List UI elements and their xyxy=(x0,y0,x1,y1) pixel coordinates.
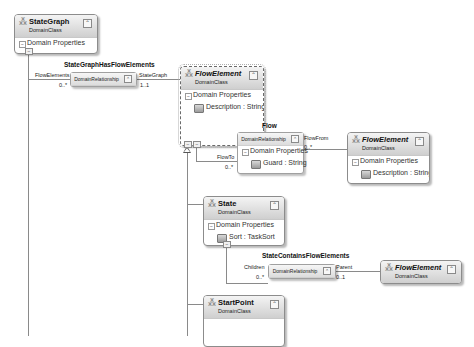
property-label: Guard : String xyxy=(263,159,307,166)
property-row[interactable]: Guard : String xyxy=(238,158,303,170)
property-icon xyxy=(361,170,371,179)
property-row[interactable]: Sort : TaskSort xyxy=(204,232,284,244)
section-label: Domain Properties xyxy=(250,147,308,154)
source-multiplicity: 0..* xyxy=(256,274,264,280)
class-kind: DomainClass xyxy=(362,145,395,151)
relationship-title: StateGraphHasFlowElements xyxy=(64,61,155,68)
has-flow-elements-line-right xyxy=(136,79,180,80)
class-icon: ⁂ xyxy=(19,18,27,26)
target-role-label: StateGraph xyxy=(139,72,167,78)
class-kind: DomainClass xyxy=(218,209,251,215)
collapse-icon[interactable]: ⌃ xyxy=(323,267,331,275)
property-label: Sort : TaskSort xyxy=(229,233,275,240)
section-toggle-icon[interactable]: − xyxy=(19,41,26,48)
section-label: Domain Properties xyxy=(216,221,274,228)
collapse-icon[interactable]: ⌃ xyxy=(291,135,299,143)
collapse-icon[interactable]: ⌃ xyxy=(249,71,258,80)
section-label: Domain Properties xyxy=(193,91,251,98)
source-role-label: Children xyxy=(244,264,264,270)
relationship-title: Flow xyxy=(262,122,277,129)
flow-element-expander-right[interactable]: − xyxy=(193,141,201,148)
class-name: StateGraph xyxy=(29,17,69,26)
domain-properties-section: − Domain Properties xyxy=(181,90,263,102)
class-icon: ⁂ xyxy=(208,299,216,307)
collapse-icon[interactable]: ⌃ xyxy=(83,19,92,28)
class-state[interactable]: ⁂ State DomainClass ⌃ − Domain Propertie… xyxy=(203,196,285,246)
state-graph-expander[interactable]: − xyxy=(25,48,33,55)
source-role-label: FlowTo xyxy=(217,154,234,160)
state-graph-vertical-connector xyxy=(28,52,29,336)
relationship-kind: DomainRelationship xyxy=(238,136,289,142)
class-flow-element-flow-target[interactable]: ⁂ FlowElement DomainClass ⌃ − Domain Pro… xyxy=(347,132,430,184)
class-header: ⁂ StartPoint DomainClass ⌃ xyxy=(204,296,284,319)
property-row[interactable]: Description : String xyxy=(181,102,263,114)
relationship-header: DomainRelationship ⌃ xyxy=(71,73,136,86)
collapse-icon[interactable]: ⌃ xyxy=(270,300,279,309)
source-multiplicity: 0..* xyxy=(59,82,67,88)
inheritance-branch-startpoint xyxy=(187,304,203,305)
relationship-flow[interactable]: DomainRelationship ⌃ − Domain Properties… xyxy=(237,132,304,174)
section-toggle-icon[interactable]: − xyxy=(185,93,192,100)
class-name: State xyxy=(218,199,236,208)
relationship-title: StateContainsFlowElements xyxy=(262,252,349,259)
class-icon: ⁂ xyxy=(352,136,360,144)
relationship-header: DomainRelationship ⌃ xyxy=(238,133,303,146)
class-kind: DomainClass xyxy=(195,79,228,85)
class-flow-element-parent-target[interactable]: ⁂ FlowElement DomainClass ⌃ xyxy=(380,260,462,284)
source-role-label: FlowElements xyxy=(35,72,70,78)
target-multiplicity: 1..1 xyxy=(140,82,149,88)
property-icon xyxy=(194,104,204,113)
class-name: FlowElement xyxy=(195,69,241,78)
relationship-state-contains-flow-elements[interactable]: DomainRelationship ⌃ xyxy=(268,264,336,279)
domain-properties-section: − Domain Properties xyxy=(348,156,429,168)
relationship-kind: DomainRelationship xyxy=(71,76,122,82)
property-row[interactable]: Description : String xyxy=(348,168,429,180)
source-multiplicity: 0..* xyxy=(225,164,233,170)
class-kind: DomainClass xyxy=(395,273,428,279)
contains-line-parent xyxy=(334,271,380,272)
target-role-label: Parent xyxy=(336,264,352,270)
class-name: StartPoint xyxy=(218,298,254,307)
class-icon: ⁂ xyxy=(208,200,216,208)
collapse-icon[interactable]: ⌃ xyxy=(447,265,456,274)
flow-line-vertical xyxy=(196,148,197,162)
target-role-label: FlowFrom xyxy=(304,135,328,141)
contains-line-vertical xyxy=(226,245,227,283)
relationship-kind: DomainRelationship xyxy=(269,268,321,274)
domain-properties-section: − Domain Properties xyxy=(204,220,284,232)
flow-line-to xyxy=(196,161,237,162)
class-start-point[interactable]: ⁂ StartPoint DomainClass ⌃ xyxy=(203,295,285,347)
target-multiplicity: 0..1 xyxy=(336,274,345,280)
class-icon: ⁂ xyxy=(185,70,193,78)
property-label: Description : String xyxy=(206,103,264,110)
collapse-icon[interactable]: ⌃ xyxy=(124,75,132,83)
collapse-icon[interactable]: ⌃ xyxy=(415,137,424,146)
class-name: FlowElement xyxy=(395,263,441,272)
class-header: ⁂ State DomainClass ⌃ xyxy=(204,197,284,220)
property-icon xyxy=(251,160,261,169)
section-label: Domain Properties xyxy=(360,157,418,164)
flow-element-expander-left[interactable]: − xyxy=(184,141,192,148)
class-name: FlowElement xyxy=(362,135,408,144)
section-toggle-icon[interactable]: − xyxy=(208,223,215,230)
section-toggle-icon[interactable]: − xyxy=(352,159,359,166)
inheritance-vertical-line xyxy=(187,153,188,336)
relationship-state-graph-has-flow-elements[interactable]: DomainRelationship ⌃ xyxy=(70,72,137,87)
section-toggle-icon[interactable]: − xyxy=(242,149,249,156)
class-kind: DomainClass xyxy=(218,308,251,314)
contains-line-children xyxy=(226,283,268,284)
collapse-icon[interactable]: ⌃ xyxy=(270,201,279,210)
class-header: ⁂ FlowElement DomainClass ⌃ xyxy=(381,261,461,283)
state-expander[interactable]: − xyxy=(223,241,231,248)
class-kind: DomainClass xyxy=(29,27,62,33)
class-icon: ⁂ xyxy=(385,264,393,272)
domain-properties-section: − Domain Properties xyxy=(238,146,303,158)
inheritance-branch-state xyxy=(187,204,203,205)
property-label: Description : String xyxy=(373,169,430,176)
class-header: ⁂ FlowElement DomainClass ⌃ xyxy=(348,133,429,156)
class-header: ⁂ FlowElement DomainClass ⌃ xyxy=(181,67,263,90)
section-label: Domain Properties xyxy=(27,39,85,46)
has-flow-elements-line-left xyxy=(28,79,70,80)
class-header: ⁂ StateGraph DomainClass ⌃ xyxy=(15,15,97,38)
